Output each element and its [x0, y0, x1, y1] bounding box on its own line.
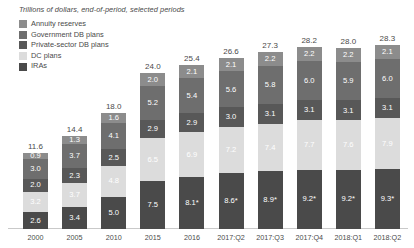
bar-segment-government-db[interactable]: 4.1 — [101, 123, 126, 150]
bar-segment-government-db[interactable]: 3.0 — [23, 159, 48, 178]
bar-total-label: 11.6 — [28, 142, 43, 151]
bar-segment-annuity-reserves[interactable]: 2.2 — [336, 48, 361, 62]
bar-segment-dc-plans[interactable]: 7.6 — [336, 120, 361, 169]
bar-segment-government-db[interactable]: 6.0 — [297, 61, 322, 100]
bar-total-label: 14.4 — [67, 125, 83, 134]
bar-group[interactable]: 24.02.05.22.96.57.52015 — [140, 73, 165, 229]
bar-segment-dc-plans[interactable]: 3.2 — [23, 192, 48, 213]
bar-segment-annuity-reserves[interactable]: 2.0 — [140, 73, 165, 86]
bar-segment-government-db[interactable]: 5.4 — [179, 78, 204, 113]
x-axis-label: 2018:Q1 — [335, 233, 363, 242]
bar-segment-private-sector-db[interactable]: 2.9 — [179, 113, 204, 132]
bar-segment-government-db[interactable]: 5.9 — [336, 62, 361, 100]
bar-segment-annuity-reserves[interactable]: 2.2 — [297, 47, 322, 61]
bar-segment-government-db[interactable]: 3.7 — [62, 144, 87, 168]
bar-segment-iras[interactable]: 9.2* — [336, 170, 361, 229]
bar-segment-iras[interactable]: 7.5 — [140, 181, 165, 229]
bar-total-label: 18.0 — [106, 102, 122, 111]
bar-segment-government-db[interactable]: 6.0 — [375, 59, 400, 98]
bar-total-label: 28.0 — [341, 37, 357, 46]
bar-segment-private-sector-db[interactable]: 2.5 — [101, 149, 126, 165]
bar-segment-dc-plans[interactable]: 7.7 — [297, 120, 322, 170]
x-axis-label: 2018:Q2 — [374, 233, 402, 242]
x-axis-label: 2016 — [184, 233, 200, 242]
bar-group[interactable]: 28.22.26.03.17.79.2*2017:Q4 — [297, 47, 322, 229]
bar-segment-private-sector-db[interactable]: 3.1 — [258, 104, 283, 124]
x-axis-label: 2017:Q4 — [295, 233, 323, 242]
bar-total-label: 28.3 — [380, 34, 396, 43]
bar-segment-iras[interactable]: 8.1* — [179, 177, 204, 229]
bar-segment-iras[interactable]: 9.3* — [375, 169, 400, 229]
bar-segment-dc-plans[interactable]: 7.2 — [219, 127, 244, 174]
bar-segment-private-sector-db[interactable]: 3.1 — [336, 100, 361, 120]
bar-segment-annuity-reserves[interactable]: 2.2 — [258, 52, 283, 66]
bar-total-label: 28.2 — [301, 36, 317, 45]
bar-segment-private-sector-db[interactable]: 2.0 — [23, 179, 48, 192]
x-axis-label: 2017:Q3 — [256, 233, 284, 242]
bar-total-label: 26.6 — [223, 47, 239, 56]
bar-group[interactable]: 14.41.33.72.33.73.42005 — [62, 136, 87, 229]
bar-segment-dc-plans[interactable]: 7.4 — [258, 124, 283, 172]
bar-group[interactable]: 18.01.64.12.54.85.02010 — [101, 113, 126, 229]
bar-segment-iras[interactable]: 3.4 — [62, 207, 87, 229]
bar-group[interactable]: 25.42.15.42.96.98.1*2016 — [179, 65, 204, 229]
bar-segment-iras[interactable]: 2.6 — [23, 212, 48, 229]
bar-segment-annuity-reserves[interactable]: 2.1 — [219, 58, 244, 72]
bar-segment-dc-plans[interactable]: 3.7 — [62, 183, 87, 207]
bar-group[interactable]: 28.32.16.03.17.99.3*2018:Q2 — [375, 45, 400, 229]
bar-segment-private-sector-db[interactable]: 3.1 — [297, 100, 322, 120]
bar-segment-private-sector-db[interactable]: 3.0 — [219, 107, 244, 126]
plot-area: 11.60.93.02.03.22.6200014.41.33.72.33.73… — [0, 0, 414, 248]
bar-group[interactable]: 28.02.25.93.17.69.2*2018:Q1 — [336, 48, 361, 229]
bar-total-label: 24.0 — [145, 62, 161, 71]
bar-segment-dc-plans[interactable]: 6.5 — [140, 138, 165, 180]
bar-group[interactable]: 27.32.25.83.17.48.9*2017:Q3 — [258, 52, 283, 229]
bar-segment-iras[interactable]: 8.6* — [219, 173, 244, 229]
bar-segment-government-db[interactable]: 5.6 — [219, 71, 244, 107]
x-axis-label: 2017:Q2 — [217, 233, 245, 242]
bar-group[interactable]: 26.62.15.63.07.28.6*2017:Q2 — [219, 58, 244, 229]
bar-segment-government-db[interactable]: 5.8 — [258, 66, 283, 104]
bar-total-label: 25.4 — [184, 54, 200, 63]
bar-segment-iras[interactable]: 5.0 — [101, 197, 126, 229]
bar-segment-iras[interactable]: 9.2* — [297, 170, 322, 229]
bar-segment-private-sector-db[interactable]: 3.1 — [375, 98, 400, 118]
bar-segment-government-db[interactable]: 5.2 — [140, 86, 165, 120]
bar-segment-dc-plans[interactable]: 4.8 — [101, 166, 126, 197]
bar-segment-annuity-reserves[interactable]: 1.3 — [62, 136, 87, 144]
bar-total-label: 27.3 — [262, 41, 278, 50]
bar-group[interactable]: 11.60.93.02.03.22.62000 — [23, 153, 48, 229]
chart-page: Trillions of dollars, end-of-period, sel… — [0, 0, 414, 248]
bar-segment-iras[interactable]: 8.9* — [258, 171, 283, 229]
bar-segment-annuity-reserves[interactable]: 2.1 — [179, 65, 204, 79]
bar-segment-dc-plans[interactable]: 7.9 — [375, 118, 400, 169]
x-axis-label: 2005 — [67, 233, 83, 242]
bar-segment-dc-plans[interactable]: 6.9 — [179, 132, 204, 177]
bar-segment-annuity-reserves[interactable]: 2.1 — [375, 45, 400, 59]
x-axis-label: 2000 — [28, 233, 44, 242]
x-axis-label: 2010 — [106, 233, 122, 242]
bar-segment-private-sector-db[interactable]: 2.3 — [62, 168, 87, 183]
bar-segment-annuity-reserves[interactable]: 1.6 — [101, 113, 126, 123]
x-axis-label: 2015 — [145, 233, 161, 242]
bar-segment-private-sector-db[interactable]: 2.9 — [140, 120, 165, 139]
